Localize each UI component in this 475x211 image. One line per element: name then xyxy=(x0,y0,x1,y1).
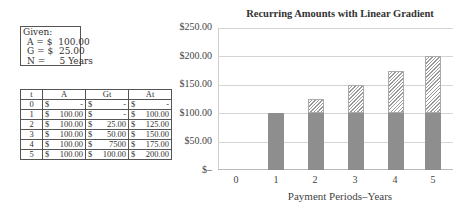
bar-period-1 xyxy=(268,113,284,170)
cell-a: 100.00 xyxy=(60,150,83,159)
cash-flow-table: t A Gt At 0 $- $- $- 1 $100.00 $- $100.0… xyxy=(20,89,172,160)
table-row: 1 $100.00 $- $100.00 xyxy=(21,110,172,120)
y-tick-label: $– xyxy=(202,164,212,175)
gridline xyxy=(218,142,453,143)
cell-cur: $ xyxy=(45,130,49,139)
cell-t: 3 xyxy=(21,130,43,140)
cell-cur: $ xyxy=(131,130,135,139)
x-tick-label: 0 xyxy=(226,174,246,185)
bar-segment-gradient xyxy=(425,56,441,113)
cell-cur: $ xyxy=(88,150,92,159)
cell-cur: $ xyxy=(131,110,135,119)
cell-at: 150.00 xyxy=(146,130,169,139)
cell-gt: - xyxy=(123,100,126,109)
cell-gt: 100.00 xyxy=(103,150,126,159)
bar-period-4 xyxy=(388,71,404,170)
table-row: 4 $100.00 $7500 $175.00 xyxy=(21,140,172,150)
cell-cur: $ xyxy=(131,140,135,149)
cell-cur: $ xyxy=(45,140,49,149)
cell-t: 2 xyxy=(21,120,43,130)
given-n: N = 5 Years xyxy=(23,57,80,67)
cell-at: 175.00 xyxy=(146,140,169,149)
y-tick-label: $150.00 xyxy=(180,78,213,89)
chart-title: Recurring Amounts with Linear Gradient xyxy=(230,8,450,19)
cell-cur: $ xyxy=(88,120,92,129)
cell-cur: $ xyxy=(131,100,135,109)
cell-t: 4 xyxy=(21,140,43,150)
cell-a: 100.00 xyxy=(60,140,83,149)
bar-segment-uniform xyxy=(308,113,324,170)
cell-gt: 50.00 xyxy=(107,130,126,139)
cell-cur: $ xyxy=(88,140,92,149)
cell-t: 5 xyxy=(21,150,43,160)
bar-segment-uniform xyxy=(268,113,284,170)
bar-segment-uniform xyxy=(348,113,364,170)
x-axis xyxy=(218,169,453,170)
table-row: 2 $100.00 $25.00 $125.00 xyxy=(21,120,172,130)
y-tick-label: $250.00 xyxy=(180,21,213,32)
cell-t: 0 xyxy=(21,100,43,110)
col-at: At xyxy=(129,90,172,100)
y-tick-label: $100.00 xyxy=(180,107,213,118)
col-a: A xyxy=(43,90,86,100)
cell-gt: 25.00 xyxy=(107,120,126,129)
y-tick-label: $50.00 xyxy=(185,135,213,146)
table-row: 5 $100.00 $100.00 $200.00 xyxy=(21,150,172,160)
x-tick-label: 5 xyxy=(423,174,443,185)
cell-at: 100.00 xyxy=(146,110,169,119)
x-tick-label: 2 xyxy=(305,174,325,185)
x-axis-title: Payment Periods–Years xyxy=(270,190,410,202)
bar-segment-uniform xyxy=(388,113,404,170)
bar-segment-uniform xyxy=(425,113,441,170)
gridline xyxy=(218,113,453,114)
y-tick-label: $200.00 xyxy=(180,50,213,61)
bar-segment-gradient xyxy=(348,85,364,113)
x-tick-label: 3 xyxy=(345,174,365,185)
gridline xyxy=(218,85,453,86)
cell-at: - xyxy=(166,100,169,109)
gridline xyxy=(218,28,453,29)
cell-cur: $ xyxy=(131,150,135,159)
gridline xyxy=(218,56,453,57)
cell-cur: $ xyxy=(88,110,92,119)
cell-t: 1 xyxy=(21,110,43,120)
cell-gt: - xyxy=(123,110,126,119)
cell-cur: $ xyxy=(45,150,49,159)
cell-a: 100.00 xyxy=(60,110,83,119)
table-row: 0 $- $- $- xyxy=(21,100,172,110)
col-gt: Gt xyxy=(86,90,129,100)
table-row: 3 $100.00 $50.00 $150.00 xyxy=(21,130,172,140)
cell-cur: $ xyxy=(45,110,49,119)
given-box: Given: A = $ 100.00 G = $ 25.00 N = 5 Ye… xyxy=(20,26,81,66)
table-header: t A Gt At xyxy=(21,90,172,100)
cell-a: - xyxy=(80,100,83,109)
col-t: t xyxy=(21,90,43,100)
cell-at: 125.00 xyxy=(146,120,169,129)
bar-period-2 xyxy=(308,99,324,170)
cell-cur: $ xyxy=(45,100,49,109)
x-tick-label: 4 xyxy=(385,174,405,185)
cell-cur: $ xyxy=(45,120,49,129)
cell-cur: $ xyxy=(88,100,92,109)
bar-period-5 xyxy=(425,56,441,170)
bar-segment-gradient xyxy=(308,99,324,113)
bar-period-3 xyxy=(348,85,364,170)
cell-at: 200.00 xyxy=(146,150,169,159)
cell-a: 100.00 xyxy=(60,120,83,129)
plot-area xyxy=(218,28,453,170)
cell-gt: 7500 xyxy=(109,140,126,149)
y-axis xyxy=(218,28,219,170)
cell-cur: $ xyxy=(88,130,92,139)
cell-a: 100.00 xyxy=(60,130,83,139)
bar-segment-gradient xyxy=(388,71,404,114)
x-tick-label: 1 xyxy=(266,174,286,185)
cell-cur: $ xyxy=(131,120,135,129)
